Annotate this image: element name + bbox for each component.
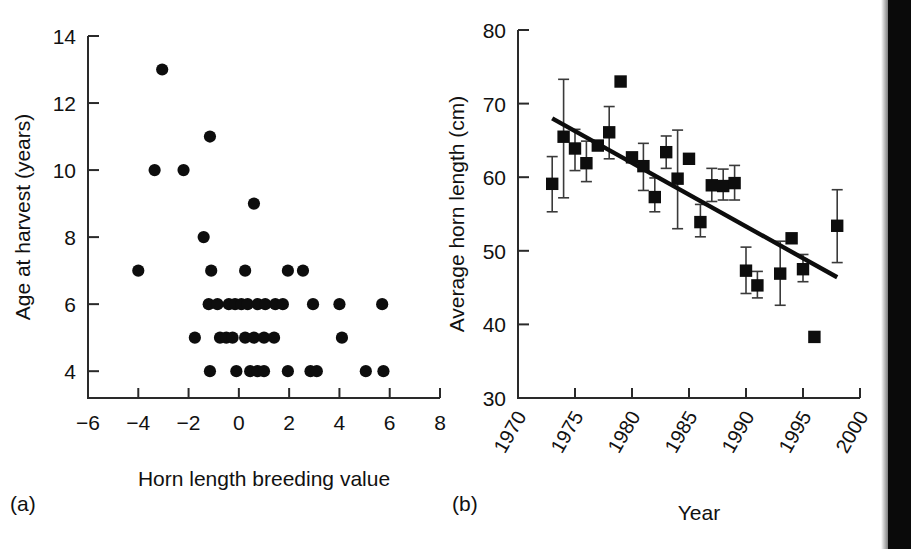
- data-point: [603, 126, 615, 138]
- data-point: [198, 231, 210, 243]
- data-point: [649, 191, 661, 203]
- data-point: [149, 164, 161, 176]
- panel-b: 1970197519801985199019952000304050607080…: [440, 0, 890, 470]
- data-point: [546, 178, 558, 190]
- x-tick-label: 0: [233, 411, 245, 434]
- y-tick-label: 12: [53, 92, 76, 115]
- data-point: [808, 331, 820, 343]
- panel-b-plot: 1970197519801985199019952000304050607080…: [440, 0, 890, 470]
- data-point: [614, 75, 626, 87]
- data-point: [694, 216, 706, 228]
- data-point: [189, 332, 201, 344]
- data-point: [336, 332, 348, 344]
- panel-a-y-axis-label: Age at harvest (years): [11, 114, 34, 321]
- data-point: [751, 279, 763, 291]
- data-point: [132, 265, 144, 277]
- x-tick-label: −2: [177, 411, 201, 434]
- x-tick-label: 1990: [717, 407, 758, 457]
- y-tick-label: 6: [64, 293, 76, 316]
- data-point: [377, 365, 389, 377]
- y-tick-label: 70: [483, 93, 506, 116]
- scan-edge-shadow: [881, 0, 888, 549]
- x-tick-label: 2: [283, 411, 295, 434]
- data-point: [706, 179, 718, 191]
- data-point: [717, 180, 729, 192]
- data-point: [156, 63, 168, 75]
- y-tick-label: 4: [64, 360, 76, 383]
- x-tick-label: −4: [126, 411, 150, 434]
- data-point: [282, 365, 294, 377]
- panel-b-y-axis-label: Average horn length (cm): [445, 96, 468, 333]
- y-tick-label: 80: [483, 19, 506, 42]
- data-point: [626, 151, 638, 163]
- panel-a-x-axis-label: Horn length breeding value: [138, 467, 390, 490]
- y-tick-label: 30: [483, 387, 506, 410]
- data-point: [774, 267, 786, 279]
- figure-root: −6−4−202468468101214Age at harvest (year…: [0, 0, 911, 549]
- data-point: [376, 298, 388, 310]
- data-point: [177, 164, 189, 176]
- data-point: [637, 160, 649, 172]
- x-tick-label: 1975: [546, 407, 587, 457]
- data-point: [226, 332, 238, 344]
- x-tick-label: 4: [334, 411, 346, 434]
- panel-b-caption: (b): [452, 492, 478, 516]
- data-point: [258, 365, 270, 377]
- data-point: [248, 197, 260, 209]
- data-point: [239, 265, 251, 277]
- data-point: [831, 220, 843, 232]
- data-point: [297, 265, 309, 277]
- data-point: [282, 265, 294, 277]
- data-point: [671, 172, 683, 184]
- panel-a-plot: −6−4−202468468101214Age at harvest (year…: [0, 0, 455, 470]
- y-tick-label: 60: [483, 166, 506, 189]
- y-tick-label: 8: [64, 226, 76, 249]
- x-tick-label: −6: [76, 411, 100, 434]
- data-point: [580, 157, 592, 169]
- y-tick-label: 40: [483, 313, 506, 336]
- data-point: [205, 265, 217, 277]
- data-point: [204, 365, 216, 377]
- x-tick-label: 1985: [660, 407, 701, 457]
- data-point: [785, 232, 797, 244]
- x-tick-label: 1970: [489, 407, 530, 457]
- y-tick-label: 10: [53, 159, 76, 182]
- data-point: [797, 263, 809, 275]
- data-point: [333, 298, 345, 310]
- data-point: [360, 365, 372, 377]
- data-point: [211, 298, 223, 310]
- x-tick-label: 1995: [774, 407, 815, 457]
- data-point: [557, 131, 569, 143]
- data-point: [204, 130, 216, 142]
- x-tick-label: 6: [384, 411, 396, 434]
- data-point: [728, 177, 740, 189]
- y-tick-label: 50: [483, 240, 506, 263]
- data-point: [740, 264, 752, 276]
- data-point: [277, 298, 289, 310]
- data-point: [683, 153, 695, 165]
- data-point: [307, 298, 319, 310]
- data-point: [592, 139, 604, 151]
- panel-a-caption: (a): [10, 492, 36, 516]
- panel-a: −6−4−202468468101214Age at harvest (year…: [0, 0, 455, 470]
- scan-edge-bar: [888, 0, 911, 549]
- y-tick-label: 14: [53, 25, 77, 48]
- x-tick-label: 1980: [603, 407, 644, 457]
- data-point: [311, 365, 323, 377]
- data-point: [268, 332, 280, 344]
- data-point: [660, 146, 672, 158]
- data-point: [230, 365, 242, 377]
- panel-b-x-axis-label: Year: [678, 501, 720, 524]
- x-tick-label: 2000: [831, 407, 872, 457]
- data-point: [569, 142, 581, 154]
